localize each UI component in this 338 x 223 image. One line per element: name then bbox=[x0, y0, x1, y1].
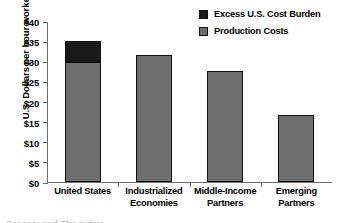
category-label-line: Economies bbox=[118, 198, 189, 210]
bar-group[interactable] bbox=[65, 21, 101, 182]
bar-group[interactable] bbox=[278, 21, 314, 182]
category-label-line: Industrialized bbox=[118, 186, 189, 198]
y-tick-label-4: $20 bbox=[24, 97, 39, 108]
bar-group[interactable] bbox=[136, 21, 172, 182]
category-label: United States bbox=[47, 186, 118, 198]
category-label: IndustrializedEconomies bbox=[118, 186, 189, 209]
y-tick-6: $30 bbox=[43, 62, 48, 63]
bar-segment[interactable] bbox=[278, 115, 314, 182]
y-tick-label-8: $40 bbox=[24, 17, 39, 28]
y-tick-label-3: $15 bbox=[24, 117, 39, 128]
bar-segment[interactable] bbox=[136, 55, 172, 182]
y-tick-1: $5 bbox=[43, 162, 48, 163]
category-label: EmergingPartners bbox=[261, 186, 332, 209]
legend: Excess U.S. Cost Burden Production Costs bbox=[199, 7, 320, 41]
y-tick-7: $35 bbox=[43, 42, 48, 43]
category-label-line: Partners bbox=[190, 198, 261, 210]
y-tick-label-2: $10 bbox=[24, 137, 39, 148]
bar-segment[interactable] bbox=[65, 62, 101, 182]
category-label: Middle-IncomePartners bbox=[190, 186, 261, 209]
legend-label-production-costs: Production Costs bbox=[214, 26, 288, 36]
footer-source-artifact: Source: and The Index bbox=[6, 219, 103, 223]
bar-segment[interactable] bbox=[207, 71, 243, 182]
legend-swatch-excess-us-cost-burden bbox=[199, 10, 208, 19]
y-tick-0: $0 bbox=[43, 183, 48, 184]
category-label-line: Emerging bbox=[261, 186, 332, 198]
y-tick-label-0: $0 bbox=[29, 178, 39, 189]
y-tick-2: $10 bbox=[43, 142, 48, 143]
category-label-line: Partners bbox=[261, 198, 332, 210]
y-tick-label-1: $5 bbox=[29, 157, 39, 168]
y-tick-label-7: $35 bbox=[24, 37, 39, 48]
bar-segment[interactable] bbox=[65, 41, 101, 62]
y-tick-4: $20 bbox=[43, 102, 48, 103]
plot-area: $0$5$10$15$20$25$30$35$40 bbox=[47, 22, 332, 183]
category-label-line: United States bbox=[47, 186, 118, 198]
legend-swatch-production-costs bbox=[199, 27, 208, 36]
y-tick-8: $40 bbox=[43, 22, 48, 23]
legend-label-excess-us-cost-burden: Excess U.S. Cost Burden bbox=[214, 9, 320, 19]
legend-item-production-costs: Production Costs bbox=[199, 24, 320, 38]
category-label-line: Middle-Income bbox=[190, 186, 261, 198]
y-tick-label-6: $30 bbox=[24, 57, 39, 68]
y-tick-5: $25 bbox=[43, 82, 48, 83]
bar-group[interactable] bbox=[207, 21, 243, 182]
y-tick-label-5: $25 bbox=[24, 77, 39, 88]
bar-chart: U.S. Dollars per hour worked $0$5$10$15$… bbox=[0, 0, 338, 223]
y-tick-3: $15 bbox=[43, 122, 48, 123]
legend-item-excess-us-cost-burden: Excess U.S. Cost Burden bbox=[199, 7, 320, 21]
